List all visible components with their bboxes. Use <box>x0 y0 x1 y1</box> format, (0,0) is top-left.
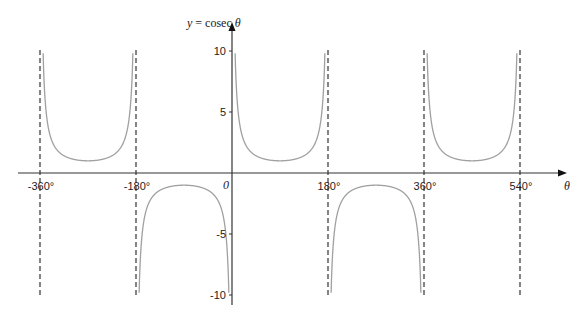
axes <box>18 22 567 305</box>
x-tick-label: -360° <box>28 180 54 192</box>
cosec-branch <box>427 53 517 161</box>
x-axis-arrow-icon <box>558 170 567 177</box>
x-tick-label: 180° <box>318 180 341 192</box>
x-tick-label: 540° <box>510 180 533 192</box>
x-axis-label: θ <box>564 179 570 193</box>
origin-label: 0 <box>223 178 229 192</box>
cosec-branch <box>235 53 325 161</box>
y-tick-label: 10 <box>214 45 226 57</box>
y-axis-label-eq: = cosec <box>192 16 234 30</box>
y-tick-label: 5 <box>220 106 226 118</box>
y-axis-label: y = cosec θ <box>186 16 241 30</box>
x-tick-label: 360° <box>414 180 437 192</box>
x-tick-label: -180° <box>124 180 150 192</box>
y-axis-label-theta: θ <box>235 16 241 30</box>
y-tick-label: -5 <box>216 228 226 240</box>
cosec-branch <box>43 53 133 161</box>
x-ticks: -360°-180°180°360°540° <box>28 180 533 192</box>
cosec-branch <box>331 185 421 293</box>
cosec-chart: 105-5-10 -360°-180°180°360°540° θ y = co… <box>0 0 588 322</box>
y-tick-label: -10 <box>210 289 226 301</box>
